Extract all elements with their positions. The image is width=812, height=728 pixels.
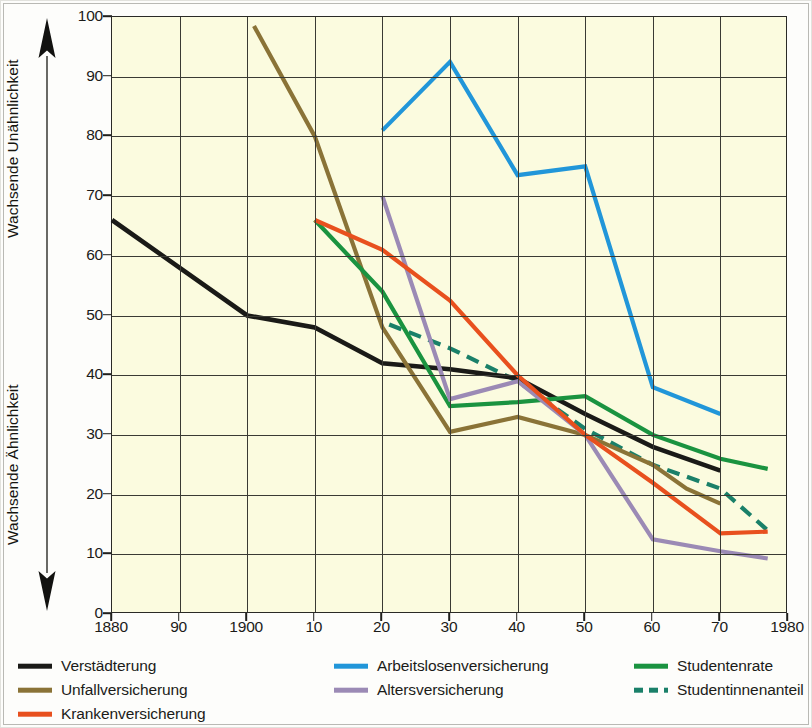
legend-item: Unfallversicherung	[18, 678, 206, 702]
gridline-vertical	[180, 17, 181, 612]
y-axis-tick-label: 50	[69, 306, 103, 324]
legend-item: Altersversicherung	[334, 678, 549, 702]
legend-item: Arbeitslosenversicherung	[334, 654, 549, 678]
y-axis-tick-label: 30	[69, 425, 103, 443]
gridline-horizontal	[112, 375, 786, 376]
chart-page: Wachsende Unähnlichkeit Wachsende Ähnlic…	[0, 0, 812, 728]
gridline-horizontal	[112, 77, 786, 78]
x-axis-tick-labels: 1880901900102030405060701980	[111, 618, 787, 644]
gridline-vertical	[585, 17, 586, 612]
x-axis-tick-label: 40	[508, 618, 525, 636]
chart-figure: Wachsende Unähnlichkeit Wachsende Ähnlic…	[0, 0, 812, 648]
y-axis-tick-label: 80	[69, 126, 103, 144]
x-axis-tick-label: 50	[576, 618, 593, 636]
y-axis-tick-label: 40	[69, 365, 103, 383]
legend-item: Verstädterung	[18, 654, 206, 678]
gridline-horizontal	[112, 136, 786, 137]
data-series-line	[382, 62, 720, 414]
gridline-vertical	[247, 17, 248, 612]
x-axis-tick-label: 70	[711, 618, 728, 636]
data-series-line	[382, 196, 767, 558]
legend-item-label: Krankenversicherung	[61, 705, 206, 723]
x-axis-tick-label: 30	[441, 618, 458, 636]
gridline-vertical	[382, 17, 383, 612]
gridline-horizontal	[112, 316, 786, 317]
legend-column-2: ArbeitslosenversicherungAltersversicheru…	[334, 654, 549, 702]
x-axis-tick-label: 90	[170, 618, 187, 636]
similarity-direction-arrow	[36, 16, 58, 613]
gridline-horizontal	[112, 256, 786, 257]
x-axis-tick-label: 1900	[229, 618, 263, 636]
y-axis-tick-labels: 0102030405060708090100	[63, 16, 103, 613]
legend-item-label: Arbeitslosenversicherung	[377, 657, 549, 675]
legend-item-label: Studentenrate	[677, 657, 773, 675]
legend-item: Studentenrate	[634, 654, 804, 678]
gridline-vertical	[315, 17, 316, 612]
y-axis-tick-label: 100	[69, 7, 103, 25]
y-axis-tick-label: 90	[69, 67, 103, 85]
legend-item-label: Studentinnenanteil	[677, 681, 804, 699]
legend-item-label: Unfallversicherung	[61, 681, 188, 699]
gridline-vertical	[450, 17, 451, 612]
gridline-vertical	[720, 17, 721, 612]
legend-item: Studentinnenanteil	[634, 678, 804, 702]
x-axis-tick-label: 20	[373, 618, 390, 636]
gridline-vertical	[518, 17, 519, 612]
y-axis-tick-label: 70	[69, 186, 103, 204]
x-axis-tick-label: 1980	[770, 618, 804, 636]
y-axis-caption-top: Wachsende Unähnlichkeit	[4, 0, 22, 238]
gridline-horizontal	[112, 495, 786, 496]
legend-column-1: VerstädterungUnfallversicherungKrankenve…	[18, 654, 206, 726]
y-axis-tick-label: 60	[69, 246, 103, 264]
x-axis-tick-label: 60	[643, 618, 660, 636]
legend-column-3: StudentenrateStudentinnenanteil	[634, 654, 804, 702]
y-axis-tick-label: 10	[69, 544, 103, 562]
gridline-horizontal	[112, 435, 786, 436]
chart-legend: VerstädterungUnfallversicherungKrankenve…	[0, 648, 812, 728]
legend-item: Krankenversicherung	[18, 702, 206, 726]
x-axis-tick-label: 10	[305, 618, 322, 636]
y-axis-tick-label: 20	[69, 485, 103, 503]
gridline-vertical	[653, 17, 654, 612]
x-axis-tick-label: 1880	[94, 618, 128, 636]
plot-area	[111, 16, 787, 613]
legend-item-label: Altersversicherung	[377, 681, 504, 699]
gridline-horizontal	[112, 196, 786, 197]
gridline-horizontal	[112, 554, 786, 555]
y-axis-caption-bottom: Wachsende Ähnlichkeit	[4, 245, 22, 545]
legend-item-label: Verstädterung	[61, 657, 156, 675]
